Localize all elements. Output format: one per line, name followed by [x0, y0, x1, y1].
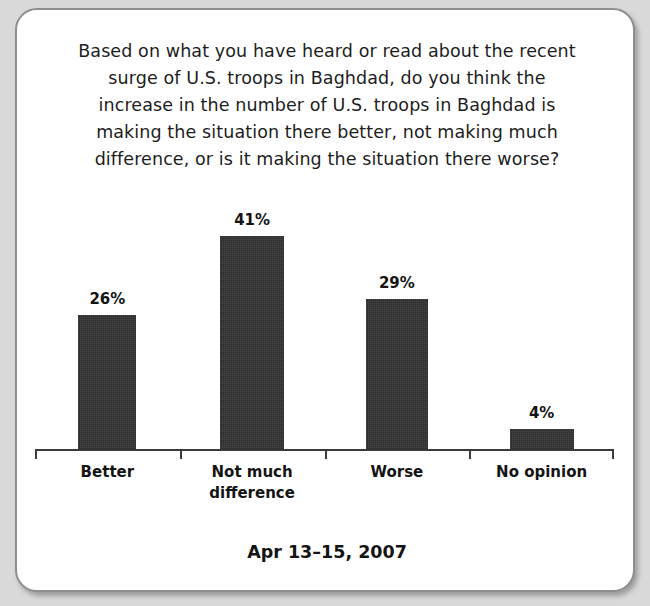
- bar-value-label-no-opinion: 4%: [529, 404, 554, 422]
- bar-value-label-better: 26%: [89, 290, 125, 308]
- x-axis-label-better: Better: [35, 462, 180, 483]
- screenshot-root: Based on what you have heard or read abo…: [0, 0, 650, 606]
- chart-card: Based on what you have heard or read abo…: [15, 8, 635, 592]
- x-axis-tick-3: [469, 450, 471, 459]
- x-axis-label-better-line-1: Better: [81, 463, 135, 481]
- x-axis-label-not-much-difference-line-2: difference: [180, 483, 325, 504]
- bar-group-worse: 29%: [325, 200, 470, 450]
- x-axis-label-worse: Worse: [325, 462, 470, 483]
- chart-title: Based on what you have heard or read abo…: [43, 38, 611, 173]
- chart-footer-date: Apr 13–15, 2007: [43, 542, 611, 562]
- title-line-3: increase in the number of U.S. troops in…: [43, 92, 611, 119]
- title-line-2: surge of U.S. troops in Baghdad, do you …: [43, 65, 611, 92]
- bar-value-label-worse: 29%: [379, 274, 415, 292]
- bar-group-better: 26%: [35, 200, 180, 450]
- title-line-5: difference, or is it making the situatio…: [43, 146, 611, 173]
- x-axis-tick-1: [180, 450, 182, 459]
- bar-group-no-opinion: 4%: [469, 200, 614, 450]
- bar-value-label-not-much-difference: 41%: [234, 211, 270, 229]
- x-axis-label-worse-line-1: Worse: [370, 463, 423, 481]
- bar-series: 26% 41% 29% 4%: [35, 200, 614, 450]
- x-axis-tick-end: [612, 450, 614, 459]
- x-axis-label-no-opinion-line-1: No opinion: [496, 463, 587, 481]
- title-line-4: making the situation there better, not m…: [43, 119, 611, 146]
- bar-no-opinion: [510, 429, 574, 450]
- bar-chart-plot: 26% 41% 29% 4%: [17, 200, 635, 462]
- bar-worse: [366, 299, 428, 450]
- x-axis-label-not-much-difference-line-1: Not much: [212, 463, 293, 481]
- bar-group-not-much-difference: 41%: [180, 200, 325, 450]
- title-line-1: Based on what you have heard or read abo…: [43, 38, 611, 65]
- bar-better: [78, 315, 136, 450]
- x-axis-label-not-much-difference: Not much difference: [180, 462, 325, 504]
- x-axis-tick-start: [35, 450, 37, 459]
- x-axis-tick-2: [325, 450, 327, 459]
- bar-not-much-difference: [220, 236, 284, 450]
- x-axis-label-no-opinion: No opinion: [469, 462, 614, 483]
- x-axis-labels: Better Not much difference Worse No opin…: [35, 462, 614, 522]
